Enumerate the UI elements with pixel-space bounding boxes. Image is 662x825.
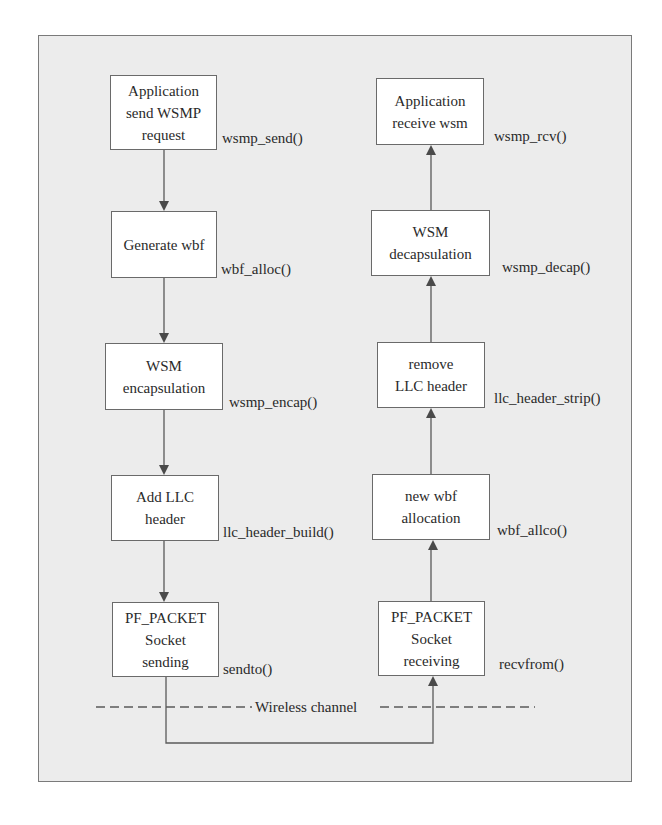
fn-wsmp-send: wsmp_send() bbox=[222, 129, 303, 147]
step-label: Application bbox=[395, 90, 466, 112]
arrowhead-down-icon bbox=[159, 201, 169, 211]
fn-wsmp-rcv: wsmp_rcv() bbox=[494, 127, 566, 145]
step-label: Application bbox=[128, 80, 199, 102]
arrowhead-up-icon bbox=[426, 276, 436, 286]
step-label: allocation bbox=[401, 507, 460, 529]
step-label: header bbox=[145, 508, 185, 530]
step-label: send WSMP bbox=[126, 102, 201, 124]
step-label: PF_PACKET bbox=[125, 607, 206, 629]
fn-wbf-alloc: wbf_alloc() bbox=[221, 260, 291, 278]
fn-recvfrom: recvfrom() bbox=[499, 655, 564, 673]
step-remove-llc-header: remove LLC header bbox=[377, 342, 485, 408]
arrowhead-down-icon bbox=[159, 333, 169, 343]
step-label: remove bbox=[409, 353, 454, 375]
step-app-receive: Application receive wsm bbox=[376, 78, 484, 145]
step-label: Socket bbox=[145, 629, 186, 651]
step-add-llc-header: Add LLC header bbox=[111, 475, 219, 541]
step-label: PF_PACKET bbox=[391, 606, 472, 628]
step-new-wbf-allocation: new wbf allocation bbox=[372, 474, 490, 540]
fn-llc-header-build: llc_header_build() bbox=[223, 523, 334, 541]
step-label: decapsulation bbox=[389, 243, 471, 265]
step-label: Socket bbox=[411, 628, 452, 650]
step-label: WSM bbox=[413, 221, 449, 243]
wireless-channel-label: Wireless channel bbox=[253, 697, 359, 717]
step-wsm-encapsulation: WSM encapsulation bbox=[105, 343, 223, 410]
step-pf-packet-receiving: PF_PACKET Socket receiving bbox=[378, 601, 485, 676]
step-pf-packet-sending: PF_PACKET Socket sending bbox=[112, 602, 219, 677]
step-label: request bbox=[142, 124, 185, 146]
step-app-send: Application send WSMP request bbox=[110, 75, 217, 150]
step-label: receiving bbox=[404, 650, 460, 672]
arrowhead-down-icon bbox=[159, 465, 169, 475]
arrowhead-up-icon bbox=[428, 676, 438, 686]
fn-wsmp-encap: wsmp_encap() bbox=[229, 393, 317, 411]
fn-llc-header-strip: llc_header_strip() bbox=[494, 389, 601, 407]
step-label: Add LLC bbox=[136, 486, 194, 508]
step-label: LLC header bbox=[395, 375, 467, 397]
step-label: receive wsm bbox=[392, 112, 467, 134]
step-label: sending bbox=[142, 651, 189, 673]
arrowhead-up-icon bbox=[426, 408, 436, 418]
step-label: new wbf bbox=[405, 485, 457, 507]
step-label: Generate wbf bbox=[123, 234, 204, 256]
fn-sendto: sendto() bbox=[223, 660, 272, 678]
arrowhead-down-icon bbox=[159, 592, 169, 602]
step-label: WSM bbox=[146, 355, 182, 377]
arrowhead-up-icon bbox=[426, 145, 436, 155]
step-wsm-decapsulation: WSM decapsulation bbox=[371, 210, 490, 276]
fn-wbf-allco: wbf_allco() bbox=[497, 521, 567, 539]
step-generate-wbf: Generate wbf bbox=[111, 211, 217, 278]
fn-wsmp-decap: wsmp_decap() bbox=[502, 258, 590, 276]
step-label: encapsulation bbox=[123, 377, 205, 399]
arrowhead-up-icon bbox=[428, 540, 438, 550]
